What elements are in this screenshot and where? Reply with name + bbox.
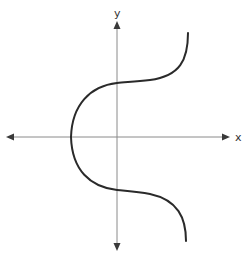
x-axis-label: x [235, 131, 242, 144]
y-axis-up-arrow-icon [114, 21, 121, 29]
y-axis-down-arrow-icon [114, 243, 121, 251]
y-axis-label: y [114, 7, 121, 20]
x-axis-right-arrow-icon [222, 134, 230, 141]
x-axis-left-arrow-icon [6, 134, 14, 141]
graph-diagram: x y [0, 0, 251, 259]
x-axis: x [6, 131, 242, 144]
y-axis: y [114, 7, 122, 251]
